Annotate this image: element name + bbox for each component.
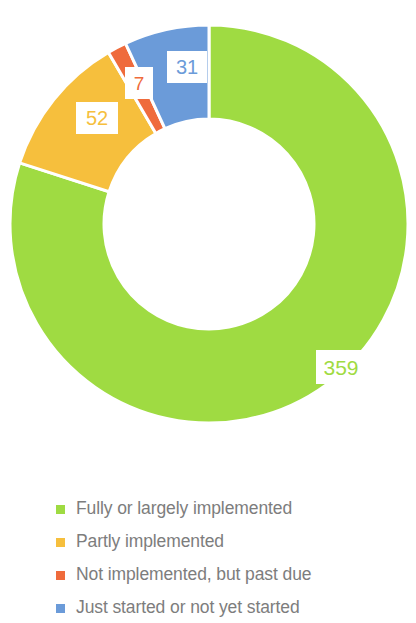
legend-item[interactable]: Fully or largely implemented [0, 492, 416, 525]
donut-plot-area: 359 52 7 31 [0, 0, 416, 470]
slice-value-label-just-started-or-not-yet-started: 31 [167, 51, 207, 83]
legend-swatch-icon [56, 604, 65, 613]
legend-swatch-icon [56, 571, 65, 580]
legend-item[interactable]: Not implemented, but past due [0, 558, 416, 591]
legend-item-label: Fully or largely implemented [76, 498, 292, 519]
donut-chart: 359 52 7 31 Fully or largely implemented… [0, 0, 416, 623]
legend-item[interactable]: Partly implemented [0, 525, 416, 558]
legend-item-label: Not implemented, but past due [76, 564, 311, 585]
legend-swatch-icon [56, 538, 65, 547]
chart-legend: Fully or largely implementedPartly imple… [0, 492, 416, 623]
legend-item-label: Partly implemented [76, 531, 224, 552]
legend-swatch-icon [56, 505, 65, 514]
donut-svg [0, 0, 416, 470]
slice-value-label-not-implemented-but-past-due: 7 [125, 67, 153, 99]
legend-item[interactable]: Just started or not yet started [0, 591, 416, 623]
slice-value-label-fully-or-largely-implemented: 359 [316, 350, 366, 384]
legend-item-label: Just started or not yet started [76, 597, 300, 618]
slice-value-label-partly-implemented: 52 [76, 102, 118, 134]
